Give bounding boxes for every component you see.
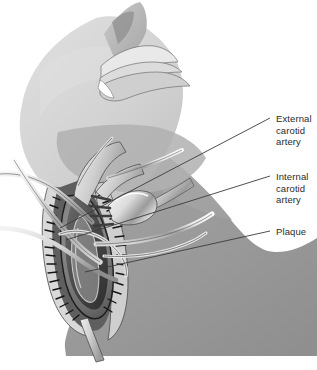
- carotid-endarterectomy-artwork: [0, 0, 317, 370]
- medical-illustration-figure: External carotid artery Internal carotid…: [0, 0, 317, 370]
- label-plaque: Plaque: [276, 226, 306, 238]
- label-internal-carotid-artery: Internal carotid artery: [276, 171, 309, 206]
- label-external-carotid-artery: External carotid artery: [276, 113, 312, 148]
- shoulder-notch-left: [0, 300, 66, 356]
